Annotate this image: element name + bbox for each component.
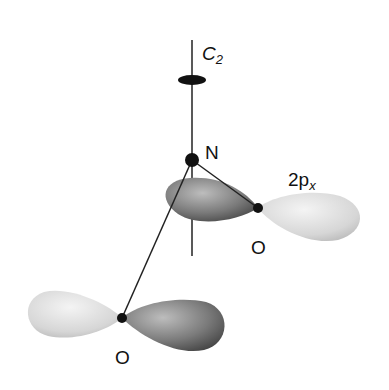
right-light-lobe (258, 193, 360, 241)
oxygen-atom-left (117, 313, 127, 323)
c2-axis-marker (178, 75, 206, 85)
orbital-diagram: C2 N 2px O O (0, 0, 389, 390)
left-light-lobe (28, 291, 122, 338)
nitrogen-label: N (205, 143, 219, 162)
right-dark-lobe (166, 178, 259, 222)
c2-label: C2 (202, 44, 223, 66)
oxygen-atom-right (253, 203, 263, 213)
nitrogen-atom (185, 153, 199, 167)
diagram-graphic (0, 0, 389, 390)
left-dark-lobe (122, 300, 225, 351)
oxygen-left-label: O (115, 348, 130, 367)
oxygen-right-label: O (251, 238, 266, 257)
bond-n-o-left (122, 160, 192, 318)
orbital-label: 2px (288, 170, 316, 192)
